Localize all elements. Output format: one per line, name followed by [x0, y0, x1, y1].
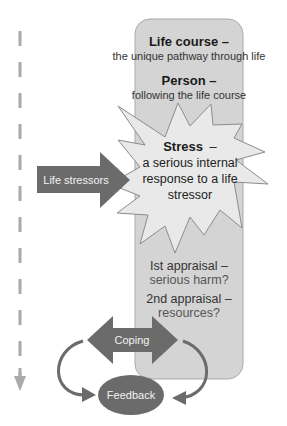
first-appraisal-title: Ist appraisal –	[150, 259, 228, 273]
second-appraisal-title: 2nd appraisal –	[146, 292, 232, 306]
person-title: Person –	[162, 73, 217, 88]
stress-title: Stress –	[163, 139, 217, 154]
life-course-subtitle: the unique pathway through life	[113, 50, 266, 62]
coping-label: Coping	[115, 334, 150, 346]
stress-line-3: stressor	[168, 188, 212, 202]
timeline-dashed-arrow	[14, 31, 26, 391]
right-curved-arrowhead-icon	[172, 391, 186, 405]
life-course-stress-diagram: Life course – the unique pathway through…	[0, 0, 287, 426]
feedback-label: Feedback	[107, 389, 156, 401]
left-curved-arrowhead-icon	[82, 387, 96, 402]
stress-title-dash: –	[210, 139, 218, 154]
arrow-down-icon	[14, 376, 26, 391]
stress-title-word: Stress	[163, 139, 203, 154]
life-stressors-arrow: Life stressors	[37, 152, 130, 208]
left-curved-arrow	[58, 341, 85, 395]
stress-line-2: response to a life	[142, 172, 237, 186]
life-stressors-label: Life stressors	[43, 174, 109, 186]
person-subtitle: following the life course	[132, 89, 246, 101]
timeline-arrow-stem	[19, 368, 22, 378]
first-appraisal-subtitle: serious harm?	[149, 273, 228, 287]
second-appraisal-subtitle: resources?	[158, 306, 220, 320]
life-course-title: Life course –	[149, 34, 229, 49]
feedback-node: Feedback	[98, 375, 164, 415]
stress-line-1: a serious internal	[142, 156, 237, 170]
